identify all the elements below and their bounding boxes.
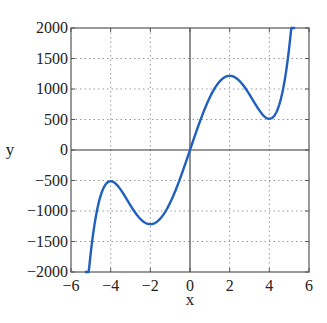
- y-tick-label: 500: [44, 111, 68, 128]
- y-tick-label: 1500: [36, 50, 68, 67]
- y-tick-label: 1000: [36, 80, 68, 97]
- x-tick-label: −4: [102, 277, 119, 294]
- x-tick-label: 2: [226, 277, 234, 294]
- x-tick-label: 4: [265, 277, 273, 294]
- y-axis-label: y: [6, 140, 15, 159]
- y-tick-label: −1500: [27, 233, 68, 250]
- y-tick-label: −500: [35, 172, 68, 189]
- x-tick-label: 6: [305, 277, 313, 294]
- y-tick-label: 0: [60, 141, 68, 158]
- y-tick-label: −2000: [27, 263, 68, 280]
- x-axis-label: x: [186, 290, 195, 309]
- chart: −6−4−20246 −2000−1500−1000−5000500100015…: [0, 0, 327, 323]
- y-tick-labels: −2000−1500−1000−5000500100015002000: [27, 19, 68, 280]
- y-tick-label: −1000: [27, 202, 68, 219]
- y-tick-label: 2000: [36, 19, 68, 36]
- x-tick-label: −2: [142, 277, 159, 294]
